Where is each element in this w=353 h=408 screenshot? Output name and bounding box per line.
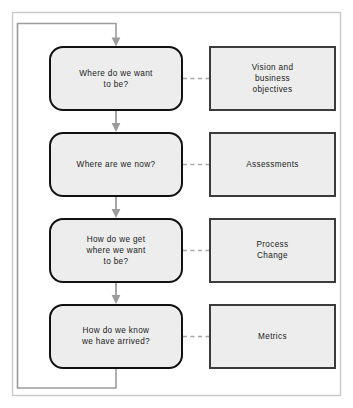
answer-node-1-line-3: objectives xyxy=(253,85,293,94)
answer-node-2-line-1: Assessments xyxy=(246,160,299,169)
answer-node-3-line-1: Process xyxy=(256,240,288,249)
question-node-4-line-1: How do we know xyxy=(83,326,150,335)
diagram-canvas: Where do we want to be? Where are we now… xyxy=(0,0,353,408)
question-node-1[interactable] xyxy=(50,47,182,110)
flow-arrowhead-q2-q3 xyxy=(112,209,121,218)
question-node-2-line-1: Where are we now? xyxy=(77,160,156,169)
answer-node-4-line-1: Metrics xyxy=(258,332,287,341)
flow-arrowhead-q1-q2 xyxy=(112,123,121,132)
flow-arrowhead-q3-q4 xyxy=(112,295,121,304)
question-node-1-line-1: Where do we want xyxy=(79,69,153,78)
answer-node-3-line-2: Change xyxy=(257,251,288,260)
answer-node-1-line-1: Vision and xyxy=(252,63,294,72)
feedback-loop-arrowhead xyxy=(112,38,121,47)
question-node-1-line-2: to be? xyxy=(104,80,129,89)
question-node-4-line-2: we have arrived? xyxy=(81,337,150,346)
question-node-3-line-1: How do we get xyxy=(87,235,146,244)
answer-node-1-line-2: business xyxy=(255,74,290,83)
question-node-3-line-3: to be? xyxy=(104,257,129,266)
question-node-3-line-2: where we want xyxy=(85,246,146,255)
flowchart-diagram: Where do we want to be? Where are we now… xyxy=(0,0,353,408)
